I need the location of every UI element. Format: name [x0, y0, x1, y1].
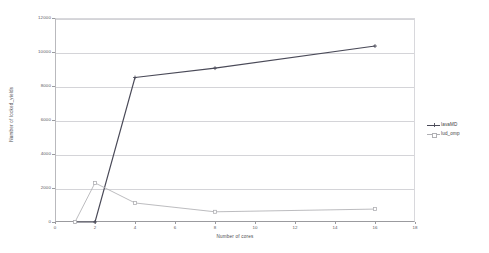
- x-axis-tick-mark: [175, 222, 176, 224]
- gridline: [56, 19, 414, 20]
- y-axis-tick-mark: [52, 86, 55, 87]
- x-axis-tick-mark: [295, 222, 296, 224]
- x-axis-tick-mark: [55, 222, 56, 224]
- legend-swatch-icon: [427, 131, 440, 138]
- y-axis-tick-mark: [52, 18, 55, 19]
- x-axis-tick-mark: [335, 222, 336, 224]
- y-axis-tick-label: 0: [7, 220, 51, 224]
- x-axis-tick-mark: [135, 222, 136, 224]
- y-axis-tick-label: 12000: [7, 16, 51, 20]
- x-axis-tick-label: 4: [134, 226, 137, 230]
- x-axis-tick-mark: [255, 222, 256, 224]
- x-axis-tick-label: 2: [94, 226, 97, 230]
- gridline: [56, 53, 414, 54]
- y-axis-tick-labels: 020004000600080001000012000: [0, 18, 51, 222]
- gridline: [56, 155, 414, 156]
- x-axis-tick-label: 10: [252, 226, 257, 230]
- line-chart-figure: 020004000600080001000012000 024681012141…: [0, 0, 489, 253]
- x-axis-tick-mark: [415, 222, 416, 224]
- plot-area: [55, 18, 415, 222]
- y-axis-tick-label: 2000: [7, 186, 51, 190]
- x-axis-tick-label: 18: [412, 226, 417, 230]
- x-axis-title: Number of cores: [55, 235, 415, 240]
- x-axis-tick-mark: [375, 222, 376, 224]
- legend-label: lud_omp: [441, 132, 460, 137]
- x-axis-tick-mark: [215, 222, 216, 224]
- x-axis-tick-label: 6: [174, 226, 177, 230]
- screenshot-root: 020004000600080001000012000 024681012141…: [0, 0, 489, 253]
- y-axis-tick-label: 10000: [7, 50, 51, 54]
- y-axis-title: Number of locked_yields: [10, 64, 15, 164]
- gridline: [56, 189, 414, 190]
- legend-label: lavaMD: [441, 123, 457, 128]
- gridline: [56, 121, 414, 122]
- y-axis-tick-mark: [52, 52, 55, 53]
- y-axis-tick-mark: [52, 120, 55, 121]
- y-axis-tick-mark: [52, 154, 55, 155]
- legend-entry-lud_omp[interactable]: lud_omp: [427, 130, 485, 138]
- y-axis-tick-mark: [52, 188, 55, 189]
- x-axis-tick-mark: [95, 222, 96, 224]
- x-axis-tick-labels: 024681012141618: [55, 226, 415, 234]
- x-axis-tick-label: 8: [214, 226, 217, 230]
- x-axis-tick-label: 0: [54, 226, 57, 230]
- legend-swatch-icon: [427, 122, 440, 129]
- chart-legend: lavaMDlud_omp: [427, 121, 485, 139]
- x-axis-tick-label: 12: [292, 226, 297, 230]
- gridline: [56, 87, 414, 88]
- x-axis-tick-label: 14: [332, 226, 337, 230]
- legend-entry-lavaMD[interactable]: lavaMD: [427, 121, 485, 129]
- x-axis-tick-label: 16: [372, 226, 377, 230]
